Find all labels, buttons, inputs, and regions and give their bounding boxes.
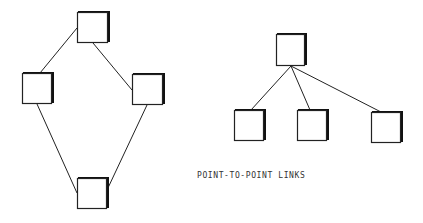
node-box-child-1 <box>235 109 267 141</box>
link-line <box>37 104 77 193</box>
link-line <box>251 66 291 110</box>
tree-topology <box>235 33 404 143</box>
node-box-child-2 <box>298 109 330 141</box>
node-box-root <box>277 33 308 66</box>
node-box-left <box>23 72 55 104</box>
node-box-child-3 <box>372 111 404 143</box>
node-box-top <box>78 11 111 43</box>
node-box-bottom <box>78 177 110 209</box>
link-line <box>93 43 132 90</box>
diagram-caption: POINT-TO-POINT LINKS <box>197 171 305 180</box>
link-line <box>291 66 381 112</box>
link-line <box>291 66 310 110</box>
link-line <box>107 105 147 190</box>
network-diagram-canvas <box>0 0 423 223</box>
node-box-right <box>133 73 166 105</box>
link-line <box>40 28 77 73</box>
ring-topology <box>23 11 166 209</box>
